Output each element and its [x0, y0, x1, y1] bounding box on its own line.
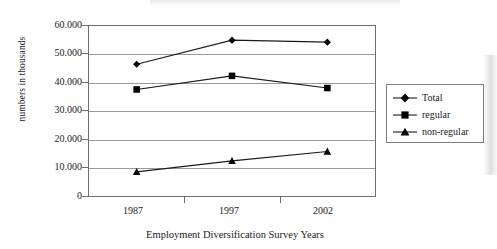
data-point-total-1997 [228, 37, 235, 44]
y-tick-label-50000: 50.000 [24, 47, 82, 58]
diamond-marker-icon [392, 91, 418, 105]
data-point-total-2002 [324, 39, 331, 46]
y-tick-label-40000: 40.000 [24, 76, 82, 87]
y-tick-label-0: 0 [24, 190, 82, 201]
legend-item-total: Total [392, 89, 483, 106]
data-point-non-regular-2002 [324, 148, 332, 155]
scan-artifact-top [150, 0, 400, 6]
x-axis-title: Employment Diversification Survey Years [0, 229, 470, 240]
plot-area [88, 25, 376, 197]
legend-label-non-regular: non-regular [422, 126, 469, 138]
chart-legend: Total regular non-regular [386, 84, 484, 143]
series-line-total [137, 40, 328, 64]
x-tick-label-1987: 1987 [98, 205, 168, 216]
y-tick-label-10000: 10.000 [24, 161, 82, 172]
scan-artifact-right [483, 55, 497, 175]
data-point-regular-1997 [229, 73, 236, 80]
data-point-total-1987 [133, 61, 140, 68]
legend-item-regular: regular [392, 106, 483, 123]
series-canvas [89, 26, 375, 196]
legend-item-non-regular: non-regular [392, 123, 483, 140]
x-tick-mark-1 [184, 197, 185, 203]
y-tick-label-30000: 30.000 [24, 104, 82, 115]
legend-label-regular: regular [422, 109, 450, 121]
triangle-marker-icon [392, 125, 418, 139]
legend-label-total: Total [422, 92, 442, 104]
x-tick-label-2002: 2002 [288, 205, 358, 216]
chart-figure: numbers in thousands 60.000 50.000 40.00… [0, 0, 497, 249]
data-point-regular-1987 [133, 86, 140, 93]
square-marker-icon [392, 108, 418, 122]
y-tick-label-20000: 20.000 [24, 133, 82, 144]
y-tick-label-60000: 60.000 [24, 19, 82, 30]
x-tick-label-1997: 1997 [194, 205, 264, 216]
x-tick-mark-2 [280, 197, 281, 203]
data-point-regular-2002 [324, 85, 331, 92]
